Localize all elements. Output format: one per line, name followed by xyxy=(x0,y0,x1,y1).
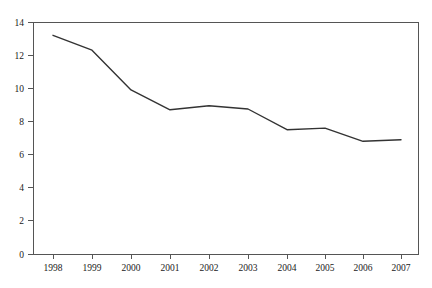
y-tick-label: 8 xyxy=(19,117,24,127)
x-tick-label: 2000 xyxy=(122,263,141,273)
x-tick-1998: 1998 xyxy=(44,254,63,273)
chart-canvas: 0 2 4 6 8 10 1 xyxy=(0,0,432,288)
x-tick-label: 1999 xyxy=(83,263,102,273)
line-chart: 0 2 4 6 8 10 1 xyxy=(0,0,432,288)
plot-frame xyxy=(33,22,418,254)
y-tick-4: 4 xyxy=(19,183,33,193)
data-series-line xyxy=(53,35,401,141)
x-tick-2003: 2003 xyxy=(239,254,258,273)
y-tick-10: 10 xyxy=(15,84,34,94)
x-tick-label: 2006 xyxy=(354,263,373,273)
x-tick-2006: 2006 xyxy=(354,254,373,273)
x-tick-label: 2007 xyxy=(392,263,411,273)
y-tick-label: 2 xyxy=(19,216,24,226)
y-tick-label: 14 xyxy=(15,18,25,28)
y-tick-12: 12 xyxy=(15,51,34,61)
x-tick-2002: 2002 xyxy=(200,254,219,273)
x-tick-2004: 2004 xyxy=(278,254,297,273)
y-axis: 0 2 4 6 8 10 1 xyxy=(15,18,34,260)
y-tick-label: 4 xyxy=(19,183,24,193)
y-tick-label: 6 xyxy=(19,150,24,160)
x-tick-label: 2002 xyxy=(200,263,219,273)
x-tick-label: 2005 xyxy=(316,263,335,273)
y-tick-2: 2 xyxy=(19,216,33,226)
y-tick-label: 10 xyxy=(15,84,25,94)
y-tick-6: 6 xyxy=(19,150,33,160)
y-tick-8: 8 xyxy=(19,117,33,127)
x-tick-label: 2004 xyxy=(278,263,297,273)
x-axis: 1998 1999 2000 2001 2002 2003 xyxy=(44,254,411,273)
y-tick-0: 0 xyxy=(19,250,33,260)
y-tick-label: 12 xyxy=(15,51,25,61)
x-tick-2001: 2001 xyxy=(161,254,180,273)
x-tick-label: 2003 xyxy=(239,263,258,273)
x-tick-2000: 2000 xyxy=(122,254,141,273)
x-tick-2007: 2007 xyxy=(392,254,411,273)
x-tick-label: 2001 xyxy=(161,263,180,273)
y-tick-14: 14 xyxy=(15,18,34,28)
x-tick-1999: 1999 xyxy=(83,254,102,273)
x-tick-label: 1998 xyxy=(44,263,63,273)
x-tick-2005: 2005 xyxy=(316,254,335,273)
y-tick-label: 0 xyxy=(19,250,24,260)
